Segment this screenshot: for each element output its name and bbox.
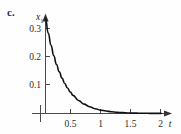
exponential-decay-plot: 0.3 0.2 0.1 0.5 1 1.5 2 t x1 (0, 0, 181, 134)
x-tick-label-1: 1 (98, 119, 103, 129)
x-axis-label: t (169, 119, 172, 129)
figure-panel: c. 0.3 0.2 0.1 0.5 1 1.5 2 t x1 (0, 0, 181, 134)
x-axis-arrowhead (164, 110, 172, 116)
y-tick-label-0.1: 0.1 (29, 80, 41, 90)
y-tick-label-0.2: 0.2 (29, 52, 41, 62)
y-axis-label: x1 (35, 12, 43, 24)
x-tick-label-2: 2 (158, 119, 163, 129)
decay-curve (46, 19, 162, 114)
y-tick-label-0.3: 0.3 (29, 24, 41, 34)
x-tick-label-1.5: 1.5 (125, 119, 137, 129)
y-axis-label-subscript: 1 (40, 17, 43, 24)
x-tick-label-0.5: 0.5 (65, 119, 77, 129)
